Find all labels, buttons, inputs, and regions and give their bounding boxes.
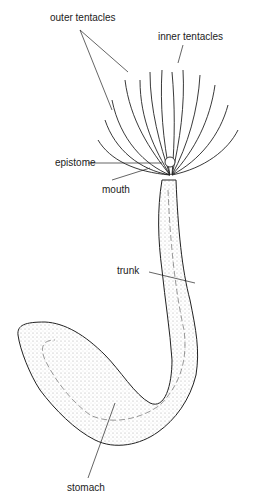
label-mouth: mouth	[102, 185, 130, 195]
body-outline	[18, 180, 198, 445]
label-outer-tentacles: outer tentacles	[50, 13, 116, 23]
phoronid-illustration	[0, 0, 262, 499]
label-epistome: epistome	[55, 158, 96, 168]
tentacle-crown	[98, 70, 238, 175]
label-inner-tentacles: inner tentacles	[158, 32, 223, 42]
label-stomach: stomach	[67, 483, 105, 493]
label-trunk: trunk	[117, 266, 139, 276]
